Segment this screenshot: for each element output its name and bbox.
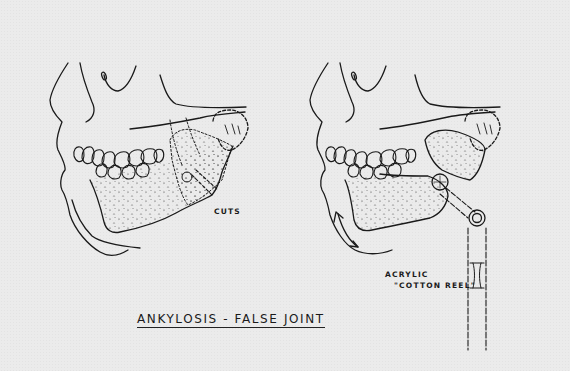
cotton-reel-label: "COTTON REEL" bbox=[394, 281, 476, 290]
acrylic-label: ACRYLIC bbox=[385, 270, 429, 279]
cuts-label: CUTS bbox=[214, 207, 241, 216]
right-teeth bbox=[326, 147, 416, 179]
left-skull-drawing bbox=[50, 63, 248, 255]
figure-title: ANKYLOSIS - FALSE JOINT bbox=[137, 312, 325, 328]
right-skull-drawing bbox=[310, 63, 500, 350]
figure-canvas: CUTS ACRYLIC "COTTON REEL" ANKYLOSIS - F… bbox=[0, 0, 570, 371]
